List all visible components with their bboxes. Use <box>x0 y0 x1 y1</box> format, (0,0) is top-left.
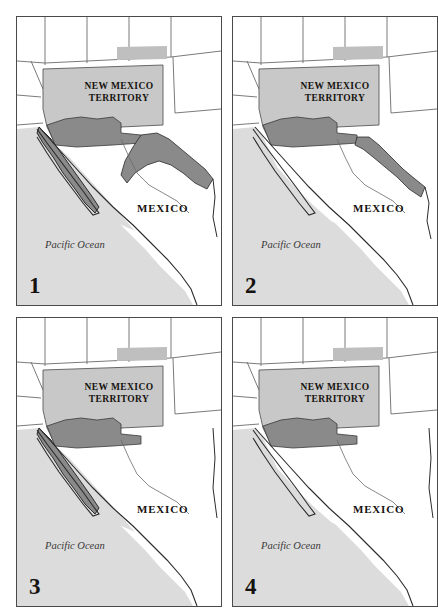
panel-3-map <box>17 318 221 606</box>
panel-2: NEW MEXICO TERRITORY MEXICO Pacific Ocea… <box>232 16 438 306</box>
panel-4-map <box>233 318 437 606</box>
upper-territory-strip <box>333 46 383 60</box>
upper-territory-strip <box>117 347 167 361</box>
panel-3: NEW MEXICO TERRITORY MEXICO Pacific Ocea… <box>16 317 222 607</box>
panel-1: NEW MEXICO TERRITORY MEXICO Pacific Ocea… <box>16 16 222 306</box>
panel-4: NEW MEXICO TERRITORY MEXICO Pacific Ocea… <box>232 317 438 607</box>
map-panel-grid: NEW MEXICO TERRITORY MEXICO Pacific Ocea… <box>0 0 438 615</box>
panel-1-map <box>17 17 221 305</box>
upper-territory-strip <box>117 46 167 60</box>
panel-2-map <box>233 17 437 305</box>
upper-territory-strip <box>333 347 383 361</box>
